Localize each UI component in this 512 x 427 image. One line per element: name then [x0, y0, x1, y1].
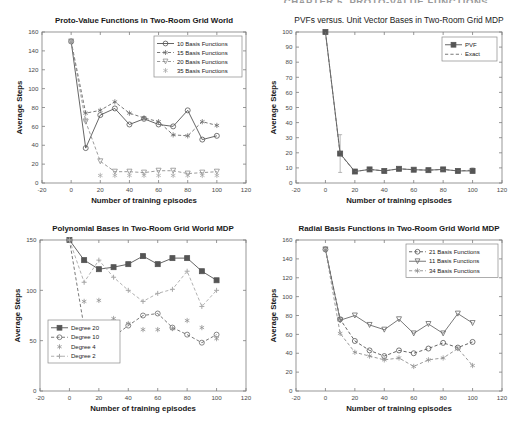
x-axis-tick-label: 20	[351, 186, 358, 193]
data-point-marker-star	[97, 298, 102, 303]
y-axis-tick-label: 60	[286, 89, 293, 96]
legend-label: Exact	[465, 51, 480, 57]
legend-label: Degree 4	[71, 344, 96, 350]
legend-label: 34 Basis Functions	[429, 268, 480, 274]
chart-svg-proto-value-functions: Proto-Value Functions in Two-Room Grid W…	[0, 10, 256, 215]
data-point-marker-star	[142, 173, 147, 178]
x-axis-tick-label: -20	[38, 186, 48, 193]
y-axis-tick-label: 100	[28, 85, 39, 92]
data-point-marker-square	[141, 254, 146, 259]
chart-legend: 21 Basis Functions11 Basis Functions34 B…	[406, 244, 498, 278]
legend-label: Degree 10	[71, 334, 100, 340]
y-axis-tick-label: 60	[286, 331, 293, 338]
y-axis-tick-label: 30	[286, 134, 293, 141]
x-axis-tick-label: 40	[126, 186, 133, 193]
x-axis-label: Number of training episodes	[91, 196, 197, 205]
x-axis-tick-label: 60	[410, 186, 417, 193]
y-axis-tick-label: 40	[286, 119, 293, 126]
x-axis-label: Number of training episodes	[90, 404, 196, 413]
x-axis-tick-label: 0	[324, 186, 328, 193]
running-header: CHAPTER 5. PROTO-VALUE FUNCTIONS	[262, 0, 510, 3]
x-axis-label: Number of training episodes	[346, 196, 452, 205]
y-axis-label: Average Steps	[269, 288, 278, 343]
legend-label: Degree 20	[71, 325, 100, 331]
x-axis-tick-label: 0	[324, 394, 328, 401]
data-point-marker-star	[113, 99, 118, 104]
y-axis-tick-label: 0	[33, 387, 37, 394]
chart-legend: Degree 20Degree 10Degree 4Degree 2	[48, 320, 120, 363]
y-axis-tick-label: 0	[289, 387, 293, 394]
legend-label: 11 Basis Functions	[429, 258, 479, 264]
y-axis-tick-label: 40	[286, 349, 293, 356]
data-point-marker-plus	[155, 291, 160, 296]
x-axis-tick-label: 0	[68, 394, 72, 401]
x-axis-tick-label: 40	[381, 394, 388, 401]
x-axis-tick-label: 80	[184, 186, 191, 193]
data-point-marker-star	[215, 173, 220, 178]
chart-legend: PVFExact	[442, 37, 497, 61]
chart-root: Radial Basis Functions in Two-Room Grid …	[269, 224, 508, 413]
chart-root: Proto-Value Functions in Two-Room Grid W…	[15, 16, 252, 205]
y-axis-tick-label: 140	[28, 47, 39, 54]
x-axis-tick-label: 20	[97, 186, 104, 193]
y-axis-tick-label: 0	[35, 179, 39, 186]
chart-panel-pvfs-vs-unit-vector: PVFs versus. Unit Vector Bases in Two-Ro…	[256, 10, 512, 215]
data-point-marker-circle	[441, 340, 446, 345]
chart-title: PVFs versus. Unit Vector Bases in Two-Ro…	[294, 15, 504, 25]
x-axis-tick-label: 0	[69, 186, 73, 193]
chart-title: Proto-Value Functions in Two-Room Grid W…	[55, 16, 233, 25]
x-axis-tick-label: 120	[241, 186, 252, 193]
data-point-marker-star	[98, 173, 103, 178]
data-point-marker-star	[200, 173, 205, 178]
x-axis-label: Number of training episodes	[346, 404, 452, 413]
y-axis-tick-label: 50	[286, 104, 293, 111]
data-point-marker-star	[156, 173, 161, 178]
y-axis-tick-label: 150	[26, 236, 37, 243]
data-point-marker-star	[155, 327, 160, 332]
x-axis-tick-label: 100	[211, 394, 222, 401]
data-point-marker-square	[451, 42, 456, 47]
legend-label: PVF	[465, 42, 477, 48]
data-point-marker-star	[141, 327, 146, 332]
chart-svg-polynomial-bases: Polynomial Bases in Two-Room Grid World …	[0, 218, 256, 423]
series-line	[69, 240, 216, 280]
x-axis-tick-label: 20	[95, 394, 102, 401]
x-axis-tick-label: 60	[410, 394, 417, 401]
y-axis-tick-label: 80	[286, 58, 293, 65]
data-point-marker-circle	[426, 346, 431, 351]
y-axis-tick-label: 10	[286, 164, 293, 171]
data-point-marker-square	[111, 265, 116, 270]
legend-label: 20 Basis Functions	[177, 59, 228, 65]
y-axis-tick-label: 20	[286, 368, 293, 375]
data-point-marker-star	[200, 325, 205, 330]
data-point-marker-star	[171, 173, 176, 178]
chart-svg-radial-basis-functions: Radial Basis Functions in Two-Room Grid …	[256, 218, 512, 423]
legend-box	[442, 37, 497, 61]
data-point-marker-star	[127, 173, 132, 178]
data-point-marker-square	[185, 256, 190, 261]
data-point-marker-square	[199, 269, 204, 274]
x-axis-tick-label: -20	[292, 394, 302, 401]
x-axis-tick-label: 60	[154, 394, 161, 401]
data-point-marker-circle	[411, 351, 416, 356]
data-point-marker-star	[185, 318, 190, 323]
y-axis-tick-label: 120	[282, 274, 293, 281]
chart-title: Polynomial Bases in Two-Room Grid World …	[52, 224, 234, 233]
x-axis-tick-label: -20	[292, 186, 302, 193]
x-axis-tick-label: 80	[440, 186, 447, 193]
y-axis-tick-label: 160	[28, 28, 39, 35]
series-line	[69, 240, 216, 306]
y-axis-tick-label: 40	[32, 141, 39, 148]
y-axis-tick-label: 120	[28, 66, 39, 73]
y-axis-tick-label: 80	[286, 312, 293, 319]
y-axis-tick-label: 0	[289, 179, 293, 186]
chart-svg-pvfs-vs-unit-vector: PVFs versus. Unit Vector Bases in Two-Ro…	[256, 10, 512, 215]
data-point-marker-square	[214, 278, 219, 283]
x-axis-tick-label: 100	[212, 186, 223, 193]
y-axis-tick-label: 100	[282, 28, 293, 35]
y-axis-label: Average Steps	[269, 80, 278, 135]
y-axis-tick-label: 80	[32, 104, 39, 111]
y-axis-tick-label: 20	[286, 149, 293, 156]
data-point-marker-square	[96, 267, 101, 272]
y-axis-label: Average Steps	[13, 288, 22, 343]
